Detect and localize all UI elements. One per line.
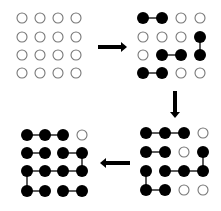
filled-node — [57, 147, 69, 159]
grid-4 — [21, 129, 88, 197]
empty-node — [35, 50, 45, 60]
filled-node — [137, 67, 149, 79]
filled-node — [159, 165, 171, 177]
empty-node — [17, 32, 27, 42]
filled-node — [76, 165, 88, 177]
filled-node — [194, 31, 206, 43]
nodes-layer — [17, 12, 209, 197]
empty-node — [53, 68, 63, 78]
filled-node — [21, 165, 33, 177]
filled-node — [156, 67, 168, 79]
empty-node — [17, 13, 27, 23]
filled-node — [21, 185, 33, 197]
empty-node — [35, 13, 45, 23]
empty-node — [176, 68, 186, 78]
empty-node — [179, 185, 189, 195]
empty-node — [198, 185, 208, 195]
empty-node — [179, 147, 189, 157]
empty-node — [138, 32, 148, 42]
filled-node — [57, 185, 69, 197]
filled-node — [178, 165, 190, 177]
empty-node — [138, 50, 148, 60]
grid-1 — [17, 13, 81, 78]
empty-node — [195, 68, 205, 78]
filled-node — [137, 12, 149, 24]
empty-node — [35, 32, 45, 42]
empty-node — [53, 32, 63, 42]
filled-node — [156, 12, 168, 24]
empty-node — [17, 68, 27, 78]
filled-node — [159, 127, 171, 139]
filled-node — [140, 146, 152, 158]
filled-node — [21, 147, 33, 159]
filled-node — [197, 146, 209, 158]
empty-node — [176, 13, 186, 23]
empty-node — [198, 128, 208, 138]
empty-node — [17, 50, 27, 60]
empty-node — [71, 32, 81, 42]
empty-node — [71, 50, 81, 60]
filled-node — [39, 147, 51, 159]
filled-node — [197, 165, 209, 177]
filled-node — [39, 129, 51, 141]
filled-node — [194, 49, 206, 61]
filled-node — [57, 165, 69, 177]
filled-node — [140, 184, 152, 196]
diagram-canvas — [0, 0, 221, 211]
filled-node — [175, 49, 187, 61]
empty-node — [176, 32, 186, 42]
empty-node — [35, 68, 45, 78]
filled-node — [140, 165, 152, 177]
filled-node — [159, 184, 171, 196]
grid-3 — [140, 127, 209, 196]
filled-node — [156, 49, 168, 61]
grid-2 — [137, 12, 206, 79]
empty-node — [77, 130, 87, 140]
filled-node — [39, 185, 51, 197]
arrow-down-icon — [170, 91, 180, 118]
arrow-right-icon — [98, 42, 127, 52]
filled-node — [159, 146, 171, 158]
arrow-left-icon — [100, 158, 130, 168]
filled-node — [178, 127, 190, 139]
filled-node — [57, 129, 69, 141]
empty-node — [195, 13, 205, 23]
filled-node — [76, 147, 88, 159]
filled-node — [39, 165, 51, 177]
filled-node — [140, 127, 152, 139]
empty-node — [157, 32, 167, 42]
empty-node — [71, 13, 81, 23]
empty-node — [71, 68, 81, 78]
filled-node — [76, 185, 88, 197]
filled-node — [21, 129, 33, 141]
empty-node — [53, 50, 63, 60]
empty-node — [53, 13, 63, 23]
